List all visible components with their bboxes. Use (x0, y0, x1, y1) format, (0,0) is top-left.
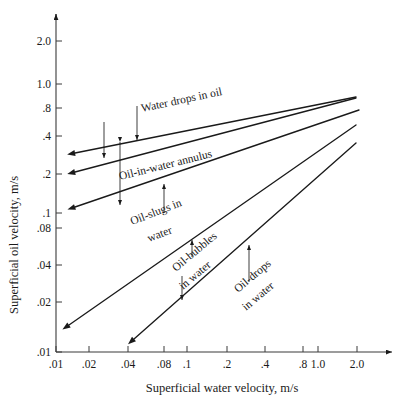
x-tick-label-02: .02 (82, 358, 97, 370)
y-tick-label-2: .2 (42, 168, 51, 180)
x-tick-label-1: .1 (183, 358, 192, 370)
annotation-labels: Water drops in oil Oil-in-water annulus … (118, 85, 276, 312)
x-tick-label-2: .2 (223, 358, 232, 370)
boundary-line-oil-in-water-annulus (75, 98, 356, 172)
y-tick-label-4: .4 (42, 130, 51, 142)
flow-regime-map-figure: .01 .02 .04 .08 .1 .2 .4 .8 1.0 2.0 .0 (0, 0, 408, 403)
annotation-oil-slugs-in-water-line-1: Oil-slugs in (128, 196, 183, 228)
y-tick-label-8: .8 (42, 102, 51, 114)
x-tick-label-8: .8 (299, 358, 308, 370)
y-tick-label-10: 1.0 (37, 78, 52, 90)
y-tick-label-20: 2.0 (37, 35, 52, 47)
regime-boundary-lines (69, 97, 359, 339)
x-tick-label-08: .08 (157, 358, 172, 370)
y-tick-label-04: .04 (37, 259, 52, 271)
y-tick-marks (56, 41, 62, 352)
x-tick-labels: .01 .02 .04 .08 .1 .2 .4 .8 1.0 2.0 (49, 358, 365, 370)
boundary-line-oil-bubbles-in-water (69, 125, 356, 325)
y-tick-label-01: .01 (37, 346, 52, 358)
annotation-oil-slugs-in-water-line-2: water (145, 223, 173, 243)
x-tick-label-04: .04 (121, 358, 136, 370)
y-tick-label-08: .08 (37, 222, 52, 234)
x-tick-marks (56, 346, 357, 352)
y-tick-labels: .01 .02 .04 .08 .1 .2 .4 .8 1.0 2.0 (37, 35, 52, 358)
chart-canvas: .01 .02 .04 .08 .1 .2 .4 .8 1.0 2.0 .0 (0, 0, 408, 403)
x-tick-label-10: 1.0 (311, 358, 326, 370)
x-tick-label-4: .4 (261, 358, 270, 370)
y-tick-label-1: .1 (42, 207, 51, 219)
x-axis-title: Superficial water velocity, m/s (146, 381, 299, 395)
x-tick-label-01: .01 (49, 358, 64, 370)
y-tick-label-02: .02 (37, 296, 52, 308)
annotation-water-drops-in-oil: Water drops in oil (140, 85, 223, 115)
x-tick-label-20: 2.0 (350, 358, 365, 370)
y-axis-title: Superficial oil velocity, m/s (7, 176, 21, 314)
